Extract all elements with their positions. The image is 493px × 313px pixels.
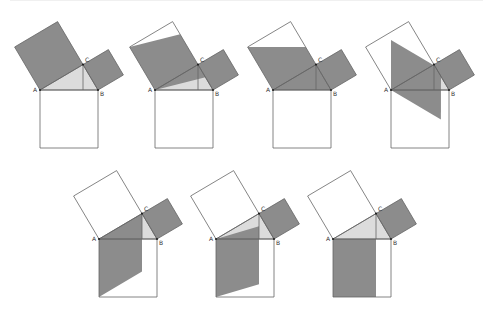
vertex-point-a bbox=[390, 89, 392, 91]
label-a: A bbox=[92, 235, 97, 242]
square-ab bbox=[40, 90, 98, 148]
vertex-point-b bbox=[156, 238, 158, 240]
vertex-point-c bbox=[315, 64, 317, 66]
vertex-point-a bbox=[272, 89, 274, 91]
square-ab bbox=[273, 90, 331, 148]
label-b: B bbox=[215, 90, 219, 97]
vertex-point-c bbox=[141, 213, 143, 215]
label-c: C bbox=[378, 205, 382, 212]
vertex-point-c bbox=[197, 64, 199, 66]
label-c: C bbox=[200, 56, 204, 63]
vertex-point-c bbox=[82, 64, 84, 66]
vertex-point-c bbox=[258, 213, 260, 215]
label-b: B bbox=[100, 90, 104, 97]
vertex-point-b bbox=[330, 89, 332, 91]
panel-3: ABC bbox=[248, 22, 357, 148]
vertex-point-b bbox=[97, 89, 99, 91]
panel-5: ABC bbox=[74, 171, 183, 297]
label-b: B bbox=[393, 239, 397, 246]
label-c: C bbox=[261, 205, 265, 212]
label-a: A bbox=[326, 235, 331, 242]
vertex-point-a bbox=[154, 89, 156, 91]
vertex-point-b bbox=[390, 238, 392, 240]
label-a: A bbox=[209, 235, 214, 242]
label-a: A bbox=[33, 86, 38, 93]
label-b: B bbox=[333, 90, 337, 97]
label-c: C bbox=[85, 56, 89, 63]
panel-2: ABC bbox=[130, 22, 239, 148]
vertex-point-b bbox=[448, 89, 450, 91]
label-c: C bbox=[436, 56, 440, 63]
vertex-point-b bbox=[273, 238, 275, 240]
label-b: B bbox=[276, 239, 280, 246]
label-c: C bbox=[144, 205, 148, 212]
label-b: B bbox=[451, 90, 455, 97]
panel-7: ABC bbox=[308, 171, 417, 297]
vertex-point-a bbox=[39, 89, 41, 91]
vertex-point-a bbox=[98, 238, 100, 240]
vertex-point-a bbox=[332, 238, 334, 240]
label-b: B bbox=[159, 239, 163, 246]
panel-1: ABC bbox=[15, 22, 124, 148]
shaded-region bbox=[333, 239, 376, 297]
label-a: A bbox=[384, 86, 389, 93]
panel-4: ABC bbox=[366, 22, 475, 148]
label-a: A bbox=[148, 86, 153, 93]
vertex-point-c bbox=[433, 64, 435, 66]
vertex-point-b bbox=[212, 89, 214, 91]
square-ab bbox=[155, 90, 213, 148]
label-a: A bbox=[266, 86, 271, 93]
proof-diagram: ABCABCABCABCABCABCABC bbox=[0, 0, 493, 313]
panel-6: ABC bbox=[191, 171, 300, 297]
vertex-point-a bbox=[215, 238, 217, 240]
vertex-point-c bbox=[375, 213, 377, 215]
label-c: C bbox=[318, 56, 322, 63]
